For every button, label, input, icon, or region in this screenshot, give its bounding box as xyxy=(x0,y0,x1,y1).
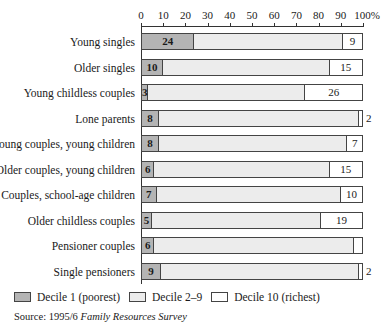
bar-segment-d1: 5 xyxy=(141,212,152,229)
x-tick-label: 90 xyxy=(335,9,346,21)
x-tick xyxy=(296,23,297,27)
source-note: Source: 1995/6 Family Resources Survey xyxy=(14,311,187,322)
bar-segment-d29 xyxy=(163,59,330,76)
bar-segment-d10: 19 xyxy=(321,212,363,229)
bar-segment-d29 xyxy=(154,237,354,254)
segment-value-label: 15 xyxy=(330,162,362,177)
bar-segment-d10: 9 xyxy=(343,33,363,50)
bar-segment-d10: 26 xyxy=(305,84,363,101)
bar-segment-d1: 9 xyxy=(141,263,161,280)
bar-segment-d1: 6 xyxy=(141,237,154,254)
stacked-bar: 9 xyxy=(141,263,363,280)
bar-segment-d29 xyxy=(161,263,359,280)
x-tick xyxy=(141,23,142,27)
x-tick xyxy=(363,23,364,27)
bar-segment-d10 xyxy=(359,110,363,127)
bar-segment-d10: 7 xyxy=(347,135,363,152)
category-label: Older childless couples xyxy=(28,212,135,230)
x-tick-label: 80 xyxy=(313,9,324,21)
x-tick-label: 10 xyxy=(158,9,169,21)
segment-value-label: 7 xyxy=(142,187,156,202)
bar-segment-d29 xyxy=(159,135,348,152)
legend-label: Decile 2–9 xyxy=(152,291,202,303)
segment-value-label: 24 xyxy=(142,34,193,49)
segment-value-label: 19 xyxy=(321,213,362,228)
bar-segment-d29 xyxy=(159,110,359,127)
x-tick xyxy=(230,23,231,27)
x-tick xyxy=(163,23,164,27)
bar-segment-d10: 15 xyxy=(330,161,363,178)
legend-swatch-decile-2-9 xyxy=(129,292,146,302)
legend-swatch-decile-1 xyxy=(14,292,31,302)
segment-value-label: 7 xyxy=(347,136,362,151)
stacked-bar: 8 xyxy=(141,110,363,127)
segment-value-label: 9 xyxy=(142,264,160,279)
x-tick-label: 100% xyxy=(354,9,380,21)
bar-segment-d1: 8 xyxy=(141,110,159,127)
bar-segment-d29 xyxy=(157,186,341,203)
category-label: Young childless couples xyxy=(24,84,135,102)
source-prefix: Source: 1995/6 xyxy=(14,311,81,322)
category-label: Pensioner couples xyxy=(52,237,135,255)
segment-value-label: 6 xyxy=(142,238,153,253)
segment-value-label: 26 xyxy=(305,85,362,100)
bar-segment-d29 xyxy=(194,33,343,50)
category-label: Single pensioners xyxy=(54,263,135,281)
x-tick xyxy=(274,23,275,27)
bar-segment-d10: 4 xyxy=(354,237,363,254)
segment-value-label: 9 xyxy=(343,34,362,49)
legend-swatch-decile-10 xyxy=(211,292,228,302)
bar-segment-d1: 24 xyxy=(141,33,194,50)
x-tick xyxy=(319,23,320,27)
bar-segment-d1: 6 xyxy=(141,161,154,178)
bar-segment-d1: 10 xyxy=(141,59,163,76)
segment-value-label: 5 xyxy=(142,213,151,228)
stacked-bar: 64 xyxy=(141,237,363,254)
bar-segment-d29 xyxy=(154,161,329,178)
bar-segment-d1: 3 xyxy=(141,84,148,101)
category-label: Older couples, young children xyxy=(0,161,135,179)
segment-value-label: 8 xyxy=(142,111,158,126)
legend-label: Decile 1 (poorest) xyxy=(37,291,120,303)
x-tick-label: 50 xyxy=(247,9,258,21)
x-tick xyxy=(185,23,186,27)
bar-segment-d29 xyxy=(152,212,321,229)
category-label: Young singles xyxy=(70,33,135,51)
segment-value-label: 8 xyxy=(142,136,158,151)
x-tick-label: 30 xyxy=(202,9,213,21)
x-tick xyxy=(341,23,342,27)
segment-value-label: 3 xyxy=(142,85,147,100)
stacked-bar: 87 xyxy=(141,135,363,152)
bar-segment-d10 xyxy=(359,263,363,280)
x-tick-label: 40 xyxy=(224,9,235,21)
segment-value-label: 2 xyxy=(366,263,372,280)
segment-value-label: 2 xyxy=(366,110,372,127)
category-label: Lone parents xyxy=(75,110,135,128)
stacked-bar: 326 xyxy=(141,84,363,101)
legend-item-decile-1: Decile 1 (poorest) xyxy=(14,291,120,303)
legend-item-decile-10: Decile 10 (richest) xyxy=(211,291,320,303)
bar-segment-d29 xyxy=(148,84,306,101)
source-title: Family Resources Survey xyxy=(81,311,187,322)
x-tick-label: 60 xyxy=(269,9,280,21)
x-tick-label: 0 xyxy=(138,9,144,21)
legend: Decile 1 (poorest) Decile 2–9 Decile 10 … xyxy=(14,291,329,303)
segment-value-label: 15 xyxy=(330,60,362,75)
legend-label: Decile 10 (richest) xyxy=(234,291,320,303)
bar-segment-d10: 15 xyxy=(330,59,363,76)
stacked-bar: 615 xyxy=(141,161,363,178)
stacked-bar: 519 xyxy=(141,212,363,229)
stacked-bar: 710 xyxy=(141,186,363,203)
segment-value-label: 6 xyxy=(142,162,153,177)
x-tick-label: 70 xyxy=(291,9,302,21)
category-label: Older singles xyxy=(74,59,135,77)
stacked-bar: 1015 xyxy=(141,59,363,76)
segment-value-label: 10 xyxy=(341,187,362,202)
x-tick-label: 20 xyxy=(180,9,191,21)
category-label: Young couples, young children xyxy=(0,135,135,153)
stacked-bar: 249 xyxy=(141,33,363,50)
bar-segment-d10: 10 xyxy=(341,186,363,203)
x-tick xyxy=(208,23,209,27)
segment-value-label: 10 xyxy=(142,60,162,75)
x-tick xyxy=(252,23,253,27)
